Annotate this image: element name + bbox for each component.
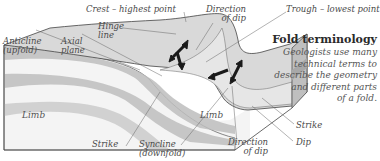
fold-terminology-title: Fold terminology bbox=[272, 33, 377, 46]
description-line: technical terms to bbox=[259, 59, 377, 71]
description-line: describe the geometry bbox=[259, 70, 377, 82]
description-line: Geologists use many bbox=[259, 47, 377, 59]
limb-right-label: Limb bbox=[200, 111, 223, 120]
trough-label: Trough – lowest point bbox=[286, 5, 380, 14]
description-line: and different parts bbox=[259, 82, 377, 94]
crest-label: Crest – highest point bbox=[86, 5, 176, 14]
limb-left-label: Limb bbox=[22, 111, 45, 120]
anticline-label-line2: (upfold) bbox=[3, 46, 37, 55]
direction-of-dip-top-label-line2: of dip bbox=[198, 14, 246, 23]
dip-label: Dip bbox=[296, 138, 311, 147]
strike-left-label: Strike bbox=[92, 140, 118, 149]
strike-right-label: Strike bbox=[296, 121, 322, 130]
direction-of-dip-bottom-label-line2: of dip bbox=[222, 147, 268, 156]
description-line: of a fold. bbox=[259, 93, 377, 105]
syncline-label-line2: (downfold) bbox=[139, 149, 185, 158]
axial-plane-label-line2: plane bbox=[61, 46, 85, 55]
fold-terminology-description: Geologists use many technical terms to d… bbox=[259, 47, 377, 105]
hinge-line-label-line2: line bbox=[98, 31, 114, 40]
fold-diagram-stage: Crest – highest point Hinge line Anticli… bbox=[0, 0, 380, 161]
